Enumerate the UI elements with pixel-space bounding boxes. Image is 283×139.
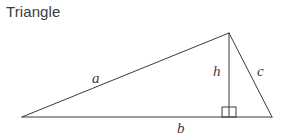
triangle-drawing <box>0 0 283 139</box>
triangle-figure-canvas: Triangle a h c b <box>0 0 283 139</box>
side-c-label: c <box>257 64 264 79</box>
side-a-line <box>22 33 229 117</box>
height-label: h <box>213 64 221 79</box>
side-a-label: a <box>92 71 100 86</box>
side-b-label: b <box>177 121 185 136</box>
side-c-line <box>229 33 272 117</box>
